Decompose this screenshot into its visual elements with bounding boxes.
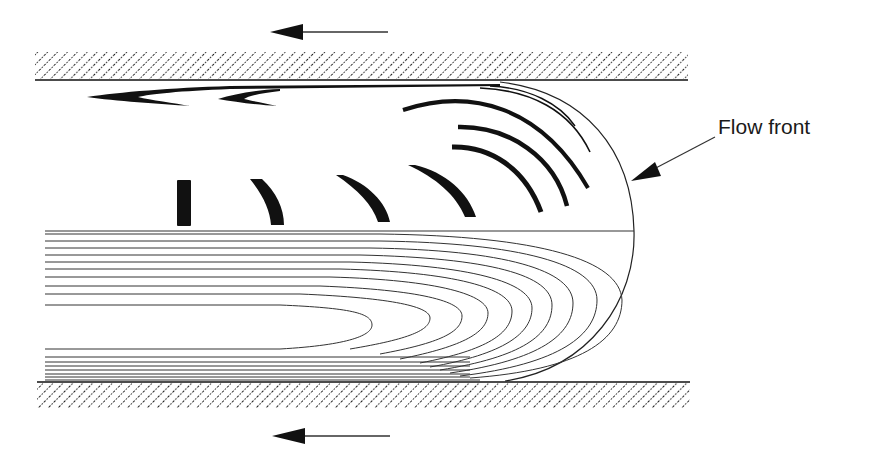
top-wall-motion-arrow-icon: [270, 24, 388, 40]
bottom-wall-motion-arrow-icon: [272, 428, 390, 444]
bottom-mold-wall: [37, 382, 690, 408]
fountain-flow-diagram: [0, 0, 870, 464]
deformed-marker-lines: [87, 84, 590, 226]
top-mold-wall: [35, 52, 688, 80]
streamlines: [45, 234, 622, 380]
flow-front-pointer-arrow-icon: [631, 137, 715, 181]
flow-front-label: Flow front: [718, 115, 810, 139]
